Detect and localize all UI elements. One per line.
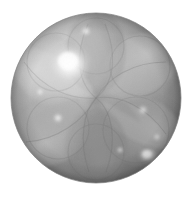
- render-canvas: Grayscale rendered translucent sphere: [0, 0, 193, 198]
- sphere-render-image: [0, 0, 193, 198]
